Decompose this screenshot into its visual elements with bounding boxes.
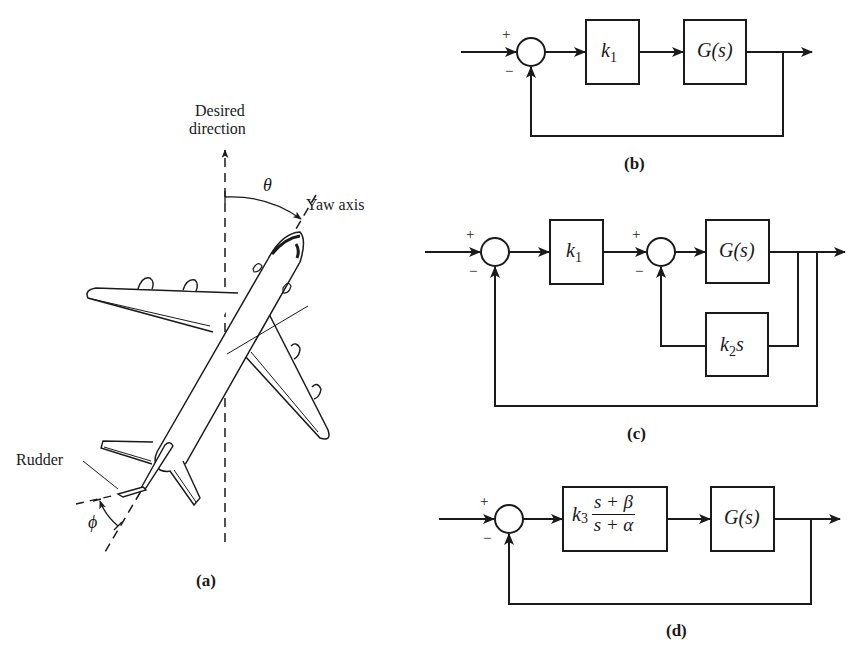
yaw-axis-label: Yaw axis (306, 197, 364, 213)
rudder-leader-line (83, 461, 118, 489)
minus-sign: − (505, 64, 513, 79)
desired-label: Desired (195, 103, 245, 119)
gs-label: G(s) (697, 40, 733, 60)
rudder-label: Rudder (16, 452, 63, 468)
compensator-label: k3 s + βs + α (572, 492, 635, 536)
k1-label: k1 (566, 240, 582, 260)
caption-a: (a) (196, 572, 216, 589)
minus-sign: − (483, 531, 491, 546)
k2s-label: k2s (720, 334, 744, 354)
block-diagram-d (439, 487, 840, 604)
plus-sign-inner: + (632, 227, 640, 242)
plus-sign: + (480, 494, 488, 509)
plus-sign-outer: + (466, 227, 474, 242)
block-diagram-c (425, 220, 845, 406)
minus-sign-inner: − (635, 264, 643, 279)
summing-junction (495, 505, 523, 533)
rate-feedback-path (768, 252, 798, 346)
gs-label: G(s) (719, 240, 755, 260)
block-diagram-b (461, 20, 812, 136)
plus-sign: + (502, 27, 510, 42)
caption-d: (d) (666, 622, 687, 639)
summing-junction-inner (647, 238, 675, 266)
direction-label: direction (189, 121, 246, 137)
phi-arc (100, 501, 118, 526)
gs-label: G(s) (724, 507, 760, 527)
theta-label: θ (263, 176, 272, 194)
theta-arc (225, 197, 301, 219)
summing-junction-outer (481, 238, 509, 266)
minus-sign-outer: − (469, 264, 477, 279)
airplane-figure (76, 150, 329, 552)
rudder (118, 487, 146, 497)
right-stabilizer (170, 461, 200, 505)
phi-label: ϕ (88, 513, 97, 531)
left-stabilizer (101, 441, 153, 464)
caption-c: (c) (627, 425, 646, 442)
caption-b: (b) (624, 155, 645, 172)
left-wing (87, 288, 238, 332)
summing-junction (517, 38, 545, 66)
diagram-canvas (0, 0, 862, 656)
k1-label: k1 (601, 40, 617, 60)
